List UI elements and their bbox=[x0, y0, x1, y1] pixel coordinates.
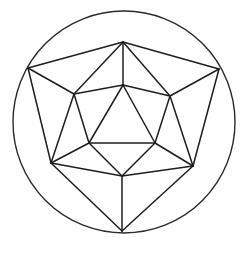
edge-UR-MR bbox=[170, 69, 219, 96]
edge-ML-IBL bbox=[74, 94, 89, 143]
edge-MT-IBL bbox=[89, 85, 123, 143]
edge-MT-IBR bbox=[123, 85, 155, 143]
edge-UL-LL bbox=[28, 68, 51, 163]
edge-T-MR bbox=[123, 42, 170, 96]
edge-MT-MR bbox=[123, 85, 170, 96]
edge-LR-MB bbox=[122, 166, 193, 176]
polyhedron-diagram bbox=[0, 0, 247, 260]
edge-LR-MR bbox=[170, 96, 193, 166]
edge-LR-B bbox=[122, 166, 193, 231]
edge-MR-IBR bbox=[155, 96, 170, 143]
edge-IBR-MB bbox=[122, 143, 155, 176]
edge-UR-LR bbox=[193, 69, 219, 166]
edge-LL-B bbox=[51, 163, 122, 231]
edge-UL-ML bbox=[28, 68, 74, 94]
outer-circle bbox=[13, 11, 235, 233]
polyhedron-edges bbox=[28, 42, 219, 231]
